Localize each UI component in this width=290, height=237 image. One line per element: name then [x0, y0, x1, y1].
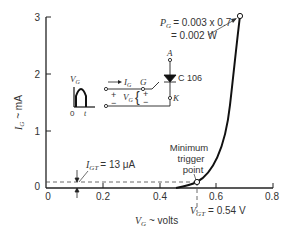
gate-label: G [140, 77, 147, 87]
x-tick-0: 0 [45, 191, 51, 202]
svg-text:0: 0 [70, 109, 75, 118]
power-annotation: PG= 0.003 x 0.7 = 0.002 W [159, 17, 237, 41]
gate-pulse-waveform: VG 0 t [70, 74, 95, 118]
gate-voltage-label: VG [123, 92, 134, 103]
minus-left: − [111, 98, 116, 108]
y-tick-1: 1 [34, 126, 40, 137]
svg-text:IG ~ mA: IG ~ mA [13, 95, 26, 131]
max-power-point-marker [237, 13, 242, 18]
svg-text:VG: VG [70, 74, 81, 85]
svg-text:VGT= 0.54 V: VGT= 0.54 V [190, 205, 246, 218]
svg-text:{: { [135, 89, 140, 105]
svg-text:trigger: trigger [178, 153, 205, 164]
minus-right: − [143, 97, 148, 107]
x-tick-0.4: 0.4 [153, 191, 167, 202]
y-axis-title: IG ~ mA [13, 95, 26, 131]
x-tick-0.8: 0.8 [265, 191, 279, 202]
x-axis-title: VG ~ volts [135, 215, 178, 228]
device-label: C 106 [178, 73, 202, 83]
y-tick-0: 0 [34, 181, 40, 192]
svg-text:= 0.002 W: = 0.002 W [171, 30, 217, 41]
svg-text:Minimum: Minimum [170, 142, 209, 153]
y-ticks [46, 17, 51, 131]
minimum-trigger-point-marker [194, 179, 199, 184]
svg-text:point: point [183, 164, 204, 175]
anode-label: A [166, 48, 173, 58]
gate-characteristic-chart: 3 2 1 0 0 0.2 0.4 0.6 0.8 VG ~ volts IG … [0, 0, 290, 237]
igt-annotation: IGT= 13 μA [79, 159, 136, 182]
cathode-label: K [172, 93, 180, 103]
trigger-annotation: Minimum trigger point [170, 142, 209, 180]
x-tick-0.6: 0.6 [209, 191, 223, 202]
y-tick-3: 3 [34, 12, 40, 23]
svg-text:t: t [84, 109, 87, 118]
y-tick-2: 2 [34, 69, 40, 80]
x-tick-0.2: 0.2 [96, 191, 110, 202]
circuit-labels: A C 106 K G IG + − VG { + − [108, 48, 202, 108]
axes [46, 17, 273, 188]
gate-current-label: IG [123, 77, 132, 88]
vgt-annotation: VGT= 0.54 V [190, 205, 246, 218]
svg-text:IGT= 13 μA: IGT= 13 μA [85, 159, 136, 172]
igt-dimension-arrows [75, 170, 79, 198]
svg-text:VG ~ volts: VG ~ volts [135, 215, 178, 228]
